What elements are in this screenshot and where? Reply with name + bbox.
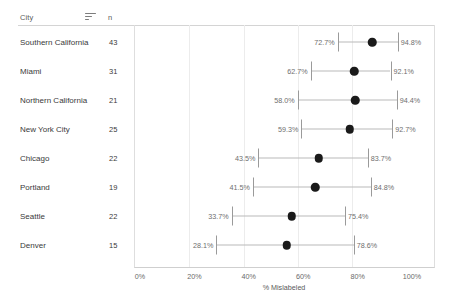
forest-plot-page: City n Southern California4372.7%94.8%Mi… [0, 0, 449, 303]
error-bar-label-low: 28.1% [182, 241, 213, 250]
error-bar-label-high: 84.8% [374, 183, 394, 192]
column-header-city[interactable]: City [20, 13, 33, 22]
x-axis-title: % Mislabeled [263, 283, 306, 292]
error-bar-label-high: 78.6% [357, 241, 377, 250]
error-bar-label-high: 94.8% [401, 38, 421, 47]
error-bar [298, 100, 397, 101]
data-point[interactable] [350, 67, 359, 76]
error-bar-label-low: 41.5% [219, 183, 250, 192]
error-bar-label-low: 72.7% [304, 38, 335, 47]
gridline-20 [189, 25, 190, 267]
x-tick-label: 0% [135, 272, 145, 281]
data-point[interactable] [314, 154, 323, 163]
error-bar-cap-low [258, 149, 259, 168]
error-bar-label-low: 59.3% [267, 125, 298, 134]
error-bar-cap-high [398, 33, 399, 52]
row-value-n: 15 [109, 241, 117, 250]
error-bar-label-high: 83.7% [371, 154, 391, 163]
row-label-city: Northern California [20, 96, 87, 105]
error-bar-label-low: 33.7% [198, 212, 229, 221]
error-bar-cap-low [311, 62, 312, 81]
error-bar-cap-high [371, 178, 372, 197]
data-point[interactable] [345, 125, 354, 134]
data-point[interactable] [283, 241, 292, 250]
x-tick-label: 80% [350, 272, 364, 281]
row-value-n: 22 [109, 212, 117, 221]
error-bar-label-high: 75.4% [348, 212, 368, 221]
error-bar-label-high: 92.7% [395, 125, 415, 134]
data-point[interactable] [311, 183, 320, 192]
row-label-city: Southern California [20, 38, 88, 47]
gridline-60 [298, 25, 299, 267]
error-bar-label-low: 58.0% [264, 96, 295, 105]
error-bar [258, 158, 367, 159]
error-bar-cap-high [392, 120, 393, 139]
error-bar-cap-high [345, 207, 346, 226]
error-bar-cap-high [391, 62, 392, 81]
error-bar-cap-low [338, 33, 339, 52]
row-value-n: 25 [109, 125, 117, 134]
error-bar-cap-low [253, 178, 254, 197]
data-point[interactable] [368, 38, 377, 47]
error-bar-cap-low [301, 120, 302, 139]
data-point[interactable] [351, 96, 360, 105]
error-bar-cap-high [368, 149, 369, 168]
x-tick-label: 100% [403, 272, 421, 281]
error-bar-cap-low [216, 236, 217, 255]
row-value-n: 21 [109, 96, 117, 105]
data-point[interactable] [288, 212, 297, 221]
x-tick-label: 60% [296, 272, 310, 281]
row-label-city: New York City [20, 125, 70, 134]
error-bar-cap-low [298, 91, 299, 110]
error-bar-label-low: 43.5% [224, 154, 255, 163]
row-label-city: Miami [20, 67, 41, 76]
row-label-city: Denver [20, 241, 46, 250]
gridline-40 [244, 25, 245, 267]
row-value-n: 43 [109, 38, 117, 47]
row-value-n: 31 [109, 67, 117, 76]
row-label-city: Chicago [20, 154, 49, 163]
row-value-n: 19 [109, 183, 117, 192]
x-tick-label: 20% [187, 272, 201, 281]
error-bar-label-high: 94.4% [400, 96, 420, 105]
error-bar-cap-high [354, 236, 355, 255]
error-bar-label-high: 92.1% [394, 67, 414, 76]
error-bar-cap-high [397, 91, 398, 110]
column-header-n[interactable]: n [108, 13, 112, 22]
row-label-city: Seattle [20, 212, 45, 221]
x-tick-label: 40% [242, 272, 256, 281]
error-bar-label-low: 62.7% [277, 67, 308, 76]
gridline-80 [352, 25, 353, 267]
row-label-city: Portland [20, 183, 50, 192]
row-value-n: 22 [109, 154, 117, 163]
sort-descending-icon[interactable] [85, 13, 96, 22]
error-bar-cap-low [232, 207, 233, 226]
